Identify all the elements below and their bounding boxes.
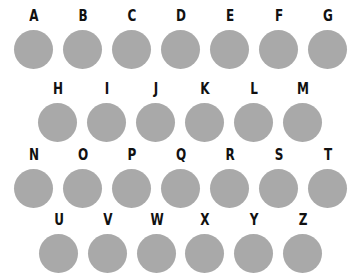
letter-label: A (18, 8, 50, 24)
letter-label: R (214, 147, 246, 163)
circle-button[interactable] (136, 103, 175, 142)
letter-label: I (91, 81, 123, 97)
circle-button[interactable] (112, 30, 151, 69)
letter-label: Y (238, 212, 270, 228)
letter-circle-o[interactable]: O (63, 147, 103, 213)
circle-button[interactable] (283, 103, 322, 142)
letter-circle-p[interactable]: P (112, 147, 152, 213)
circle-button[interactable] (308, 169, 347, 208)
letter-label: M (287, 81, 319, 97)
circle-button[interactable] (308, 30, 347, 69)
letter-circle-l[interactable]: L (234, 81, 274, 147)
letter-circle-t[interactable]: T (308, 147, 348, 213)
letter-circle-s[interactable]: S (259, 147, 299, 213)
letter-label: V (92, 212, 124, 228)
circle-button[interactable] (14, 169, 53, 208)
letter-label: Q (165, 147, 197, 163)
circle-button[interactable] (259, 30, 298, 69)
letter-label: L (238, 81, 270, 97)
letter-label: G (312, 8, 344, 24)
letter-circle-x[interactable]: X (185, 212, 225, 278)
circle-button[interactable] (137, 234, 176, 273)
letter-circle-j[interactable]: J (136, 81, 176, 147)
circle-button[interactable] (234, 103, 273, 142)
letter-circle-r[interactable]: R (210, 147, 250, 213)
letter-label: S (263, 147, 295, 163)
letter-label: W (141, 212, 173, 228)
circle-button[interactable] (161, 169, 200, 208)
letter-label: E (214, 8, 246, 24)
letter-label: Z (287, 212, 319, 228)
letter-label: T (312, 147, 344, 163)
letter-circle-n[interactable]: N (14, 147, 54, 213)
circle-button[interactable] (38, 103, 77, 142)
letter-circle-b[interactable]: B (63, 8, 103, 74)
letter-circle-i[interactable]: I (87, 81, 127, 147)
circle-button[interactable] (259, 169, 298, 208)
letter-label: U (43, 212, 75, 228)
letter-label: N (18, 147, 50, 163)
letter-label: J (140, 81, 172, 97)
letter-circle-c[interactable]: C (112, 8, 152, 74)
circle-button[interactable] (161, 30, 200, 69)
letter-label: C (116, 8, 148, 24)
circle-button[interactable] (63, 30, 102, 69)
letter-label: X (189, 212, 221, 228)
letter-circle-v[interactable]: V (88, 212, 128, 278)
letter-circle-e[interactable]: E (210, 8, 250, 74)
letter-label: P (116, 147, 148, 163)
letter-circle-g[interactable]: G (308, 8, 348, 74)
circle-button[interactable] (87, 103, 126, 142)
letter-circle-q[interactable]: Q (161, 147, 201, 213)
circle-button[interactable] (185, 234, 224, 273)
circle-button[interactable] (210, 30, 249, 69)
letter-circle-f[interactable]: F (259, 8, 299, 74)
circle-button[interactable] (185, 103, 224, 142)
circle-button[interactable] (234, 234, 273, 273)
letter-label: F (263, 8, 295, 24)
circle-button[interactable] (210, 169, 249, 208)
letter-label: H (42, 81, 74, 97)
letter-label: K (189, 81, 221, 97)
letter-circle-h[interactable]: H (38, 81, 78, 147)
circle-button[interactable] (63, 169, 102, 208)
circle-button[interactable] (283, 234, 322, 273)
letter-circle-w[interactable]: W (137, 212, 177, 278)
letter-circle-z[interactable]: Z (283, 212, 323, 278)
letter-circle-a[interactable]: A (14, 8, 54, 74)
letter-circle-u[interactable]: U (39, 212, 79, 278)
circle-button[interactable] (88, 234, 127, 273)
letter-label: B (67, 8, 99, 24)
letter-circle-m[interactable]: M (283, 81, 323, 147)
letter-label: O (67, 147, 99, 163)
letter-circle-k[interactable]: K (185, 81, 225, 147)
circle-button[interactable] (14, 30, 53, 69)
letter-label: D (165, 8, 197, 24)
letter-circle-y[interactable]: Y (234, 212, 274, 278)
circle-button[interactable] (39, 234, 78, 273)
circle-button[interactable] (112, 169, 151, 208)
letter-circle-d[interactable]: D (161, 8, 201, 74)
